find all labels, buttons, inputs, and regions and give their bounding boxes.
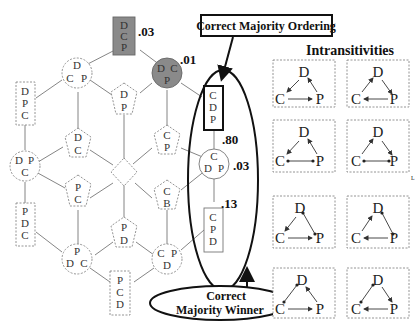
svg-text:D: D bbox=[74, 131, 82, 143]
svg-text:C: C bbox=[210, 150, 217, 162]
svg-text:B: B bbox=[163, 197, 170, 209]
node-circle-cdp: C D P bbox=[199, 149, 229, 179]
svg-text:D: D bbox=[157, 62, 165, 74]
intransitivity-3: D C P bbox=[273, 120, 335, 172]
svg-text:P: P bbox=[121, 41, 127, 53]
svg-text:P: P bbox=[316, 91, 324, 107]
svg-text:P: P bbox=[22, 97, 28, 109]
node-pent-dc: D C bbox=[65, 128, 91, 157]
svg-text:P: P bbox=[164, 141, 170, 153]
intransitivity-5: D C P bbox=[273, 196, 335, 248]
stray-mark: ʟ bbox=[411, 173, 415, 182]
svg-text:C: C bbox=[163, 129, 170, 141]
majority-ordering-diagram: D C P .03 D C P D C P .01 D P C D P D C … bbox=[0, 0, 418, 332]
svg-text:Majority Winner: Majority Winner bbox=[176, 303, 265, 317]
svg-text:C: C bbox=[163, 185, 170, 197]
svg-text:D: D bbox=[373, 124, 384, 140]
value-dcp-top: .03 bbox=[138, 24, 155, 39]
intransitivity-2: D C P bbox=[347, 60, 409, 107]
svg-text:C: C bbox=[275, 230, 285, 246]
svg-text:D: D bbox=[163, 259, 171, 271]
svg-text:P: P bbox=[164, 74, 170, 86]
svg-text:P: P bbox=[81, 72, 87, 84]
node-box-cdp-bold: C D P bbox=[204, 86, 223, 130]
svg-text:D: D bbox=[204, 162, 212, 174]
svg-text:P: P bbox=[121, 221, 127, 233]
svg-text:C: C bbox=[74, 193, 81, 205]
intransitivity-4: D C P bbox=[347, 120, 409, 172]
svg-text:C: C bbox=[351, 153, 361, 169]
svg-text:P: P bbox=[210, 223, 216, 235]
node-rect-pdc: P D C bbox=[16, 203, 35, 246]
intransitivity-8: D C P bbox=[347, 268, 409, 318]
svg-text:P: P bbox=[171, 247, 177, 259]
svg-text:D: D bbox=[299, 124, 310, 140]
svg-text:D: D bbox=[209, 235, 217, 247]
svg-text:D: D bbox=[73, 59, 81, 71]
svg-text:D: D bbox=[120, 234, 128, 246]
svg-text:C: C bbox=[116, 286, 123, 298]
value-dcp-circle: .01 bbox=[180, 52, 196, 67]
node-circle-dcp-left: D C P bbox=[62, 58, 92, 88]
node-rect-pcd: P C D bbox=[110, 271, 130, 315]
svg-text:C: C bbox=[80, 257, 87, 269]
node-diamond-center bbox=[111, 158, 137, 186]
value-cdp-circle: .03 bbox=[233, 158, 250, 173]
svg-text:C: C bbox=[170, 62, 177, 74]
value-cpd-box: .13 bbox=[221, 196, 238, 211]
svg-text:P: P bbox=[390, 301, 398, 317]
node-pent-pd: P D bbox=[111, 217, 137, 247]
intransitivity-6: D C P bbox=[347, 196, 409, 248]
svg-text:D: D bbox=[373, 64, 384, 80]
svg-text:C: C bbox=[21, 109, 28, 121]
svg-text:P: P bbox=[218, 162, 224, 174]
intransitivity-1: D C P bbox=[273, 60, 335, 107]
svg-text:D: D bbox=[116, 298, 124, 310]
intransitivities-title: Intransitivities bbox=[306, 43, 394, 58]
svg-text:P: P bbox=[117, 274, 123, 286]
node-pent-cb: C B bbox=[154, 180, 180, 209]
node-pent-cp: C P bbox=[154, 125, 180, 154]
svg-text:P: P bbox=[75, 181, 81, 193]
svg-text:C: C bbox=[275, 153, 285, 169]
svg-text:C: C bbox=[351, 91, 361, 107]
node-circle-dcp-shaded: D C P bbox=[152, 58, 182, 88]
svg-text:P: P bbox=[74, 245, 80, 257]
svg-text:C: C bbox=[21, 229, 28, 241]
svg-text:Correct: Correct bbox=[206, 289, 246, 303]
svg-text:D: D bbox=[15, 154, 23, 166]
svg-text:D: D bbox=[209, 101, 217, 113]
svg-text:D: D bbox=[66, 257, 74, 269]
intransitivity-7: D C P bbox=[273, 268, 335, 318]
svg-text:P: P bbox=[210, 113, 216, 125]
node-pent-dp: D P bbox=[111, 83, 137, 114]
callout-correct-majority-winner: Correct Majority Winner bbox=[150, 270, 290, 320]
svg-text:C: C bbox=[351, 230, 361, 246]
svg-text:C: C bbox=[74, 144, 81, 156]
svg-text:D: D bbox=[21, 85, 29, 97]
value-cdp-box: .80 bbox=[222, 132, 238, 147]
svg-text:C: C bbox=[157, 247, 164, 259]
node-box-cpd: C P D bbox=[204, 208, 223, 252]
svg-text:P: P bbox=[22, 205, 28, 217]
svg-text:D: D bbox=[120, 88, 128, 100]
svg-text:D: D bbox=[21, 217, 29, 229]
node-rect-dpc: D P C bbox=[16, 82, 35, 125]
svg-text:C: C bbox=[209, 211, 216, 223]
node-circle-pdc: P D C bbox=[62, 244, 92, 274]
node-pent-pc: P C bbox=[65, 175, 91, 206]
svg-text:C: C bbox=[66, 72, 73, 84]
svg-text:C: C bbox=[209, 89, 216, 101]
svg-text:P: P bbox=[390, 153, 398, 169]
node-top-box-dcp: D C P bbox=[113, 17, 135, 55]
svg-text:P: P bbox=[390, 230, 398, 246]
node-circle-dpc: D P C bbox=[10, 151, 40, 181]
svg-text:Correct Majority Ordering: Correct Majority Ordering bbox=[196, 19, 336, 33]
svg-text:C: C bbox=[351, 301, 361, 317]
diagram-canvas: D C P .03 D C P D C P .01 D P C D P D C … bbox=[0, 0, 418, 332]
svg-text:P: P bbox=[316, 301, 324, 317]
svg-text:P: P bbox=[121, 101, 127, 113]
svg-text:C: C bbox=[21, 166, 28, 178]
svg-text:P: P bbox=[316, 230, 324, 246]
node-circle-cpd: C P D bbox=[152, 244, 182, 274]
